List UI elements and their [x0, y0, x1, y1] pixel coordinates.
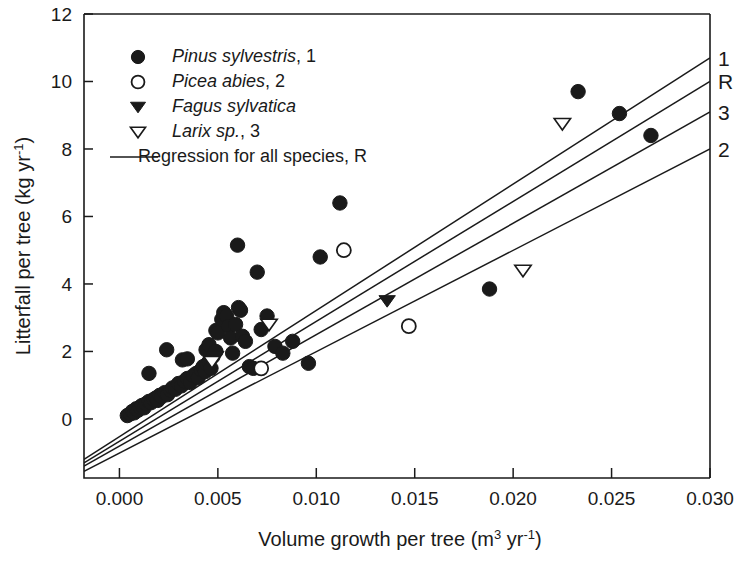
y-tick-label: 6 [61, 206, 72, 227]
y-tick-label: 0 [61, 409, 72, 430]
data-point [230, 238, 244, 252]
x-axis-title: Volume growth per tree (m3 yr-1) [258, 527, 541, 550]
legend-item-regression: Regression for all species, R [110, 146, 367, 166]
x-axis-tick-labels: 0.0000.0050.0100.0150.0200.0250.030 [96, 488, 734, 509]
data-point [238, 334, 252, 348]
legend-label-regression: Regression for all species, R [138, 146, 367, 166]
data-point [159, 343, 173, 357]
regression-label-2: 2 [718, 138, 730, 161]
data-point [554, 118, 570, 130]
data-point [180, 352, 194, 366]
legend: Pinus sylvestris, 1Picea abies, 2Fagus s… [110, 46, 367, 166]
x-axis-ticks [119, 468, 710, 478]
data-point [644, 128, 658, 142]
legend-item: Pinus sylvestris, 1 [131, 46, 316, 66]
data-point [254, 361, 268, 375]
x-tick-label: 0.030 [686, 488, 734, 509]
data-point [402, 319, 416, 333]
legend-item: Picea abies, 2 [132, 71, 286, 91]
data-point [612, 106, 626, 120]
data-point [313, 250, 327, 264]
data-point [250, 265, 264, 279]
y-tick-label: 4 [61, 274, 72, 295]
y-axis-ticks [84, 14, 93, 419]
data-point [285, 334, 299, 348]
regression-label-1: 1 [718, 47, 730, 70]
data-point [333, 196, 347, 210]
y-tick-label: 8 [61, 139, 72, 160]
x-tick-label: 0.020 [489, 488, 537, 509]
data-point [301, 356, 315, 370]
y-axis-title: Litterfall per tree (kg yr-1) [11, 137, 34, 355]
regression-label-3: 3 [718, 101, 730, 124]
data-point [276, 346, 290, 360]
legend-marker-open-triangle [130, 127, 145, 138]
y-tick-label: 12 [51, 4, 72, 25]
legend-label: Larix sp., 3 [172, 121, 260, 141]
legend-marker-open-circle [132, 76, 145, 89]
data-point [482, 282, 496, 296]
regression-label-R: R [718, 70, 733, 93]
x-tick-label: 0.015 [391, 488, 439, 509]
scatter-plot: 024681012 0.0000.0050.0100.0150.0200.025… [0, 0, 745, 569]
data-point [337, 243, 351, 257]
legend-item: Larix sp., 3 [130, 121, 260, 141]
regression-line-2 [84, 149, 710, 471]
x-tick-label: 0.000 [96, 488, 144, 509]
legend-label: Pinus sylvestris, 1 [172, 46, 316, 66]
legend-marker-filled-triangle [130, 102, 145, 113]
legend-item: Fagus sylvatica [130, 96, 296, 116]
x-tick-label: 0.025 [588, 488, 636, 509]
legend-marker-filled-circle [131, 50, 144, 63]
x-tick-label: 0.005 [194, 488, 242, 509]
data-point [233, 303, 247, 317]
regression-line-labels: 1R32 [718, 47, 733, 161]
data-point [571, 84, 585, 98]
y-axis-tick-labels: 024681012 [51, 4, 73, 430]
data-point [142, 366, 156, 380]
data-point [225, 346, 239, 360]
data-point [515, 265, 531, 277]
y-tick-label: 10 [51, 71, 72, 92]
y-tick-label: 2 [61, 341, 72, 362]
legend-label: Picea abies, 2 [172, 71, 285, 91]
x-tick-label: 0.010 [293, 488, 341, 509]
figure-container: 024681012 0.0000.0050.0100.0150.0200.025… [0, 0, 745, 569]
data-point [379, 296, 395, 308]
legend-label: Fagus sylvatica [172, 96, 296, 116]
